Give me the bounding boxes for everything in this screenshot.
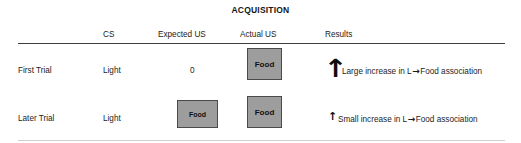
result-prefix-first-trial: Large increase in L	[342, 67, 412, 76]
cell-cs-first-trial: Light	[103, 66, 121, 75]
column-header-cs: CS	[103, 30, 114, 39]
food-box-actual-us-first-trial: Food	[247, 48, 282, 80]
result-text-first-trial: Large increase in L→Food association	[342, 66, 482, 76]
cell-cs-later-trial: Light	[103, 114, 121, 123]
result-prefix-later-trial: Small increase in L	[338, 115, 407, 124]
column-header-results: Results	[325, 30, 352, 39]
figure-title: ACQUISITION	[0, 5, 521, 15]
column-header-actual-us: Actual US	[240, 30, 276, 39]
column-header-expected-us: Expected US	[158, 30, 206, 39]
food-box-expected-us-later-trial: Food	[177, 100, 218, 128]
cell-expected-us-first-trial: 0	[190, 66, 195, 75]
right-arrow-icon: →	[412, 66, 421, 76]
food-box-actual-us-later-trial: Food	[247, 96, 282, 128]
result-suffix-first-trial: Food association	[420, 67, 482, 76]
row-label-later-trial: Later Trial	[18, 114, 54, 123]
arrow-up-small-icon: ↑	[328, 111, 337, 122]
footer-rule	[18, 140, 505, 141]
row-label-first-trial: First Trial	[18, 66, 52, 75]
acquisition-figure: ACQUISITION CS Expected US Actual US Res…	[0, 0, 521, 143]
right-arrow-icon: →	[407, 114, 416, 124]
header-rule	[18, 43, 505, 44]
result-text-later-trial: Small increase in L→Food association	[338, 114, 478, 124]
result-suffix-later-trial: Food association	[416, 115, 478, 124]
